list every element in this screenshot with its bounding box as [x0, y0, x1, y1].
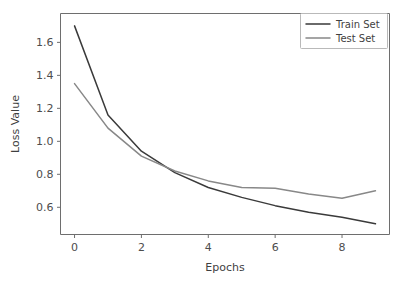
y-tick-label: 1.6 [36, 36, 54, 49]
line-chart: 0.60.81.01.21.41.6 02468 Epochs Loss Val… [0, 0, 410, 281]
x-tick-label: 8 [339, 241, 346, 254]
x-tick-label: 6 [272, 241, 279, 254]
y-tick-label: 0.8 [36, 168, 54, 181]
legend-label-train-set: Train Set [335, 19, 380, 30]
y-axis-title: Loss Value [9, 95, 22, 153]
y-tick-label: 0.6 [36, 201, 54, 214]
chart-figure: 0.60.81.01.21.41.6 02468 Epochs Loss Val… [0, 0, 410, 281]
x-tick-label: 4 [205, 241, 212, 254]
y-tick-label: 1.4 [36, 69, 54, 82]
x-tick-label: 2 [138, 241, 145, 254]
x-axis-title: Epochs [205, 261, 245, 274]
legend-label-test-set: Test Set [335, 33, 375, 44]
y-tick-label: 1.2 [36, 102, 54, 115]
chart-legend: Train Set Test Set [301, 14, 388, 49]
x-tick-label: 0 [71, 241, 78, 254]
y-tick-label: 1.0 [36, 135, 54, 148]
